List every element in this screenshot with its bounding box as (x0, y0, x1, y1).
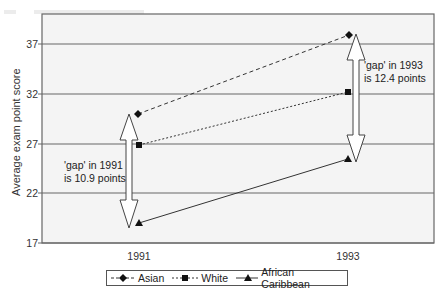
marker-white-1991 (136, 142, 142, 148)
legend-white-square-icon (172, 274, 198, 282)
x-tick-1993: 1993 (328, 250, 368, 262)
plot-frame (42, 14, 434, 243)
gap-1993-annotation: 'gap' in 1993 is 12.4 points (364, 59, 426, 85)
gap-1991-annotation: 'gap' in 1991 is 10.9 points (64, 159, 126, 185)
gap-1991-line1: 'gap' in 1991 (64, 159, 126, 172)
legend-label-white: White (201, 272, 228, 284)
y-tick-32: 32 (14, 88, 38, 100)
chart-legend: Asian White African Caribbean (106, 270, 348, 286)
y-tick-22: 22 (14, 187, 38, 199)
x-tick-1991: 1991 (119, 250, 159, 262)
gap-1993-line2: is 12.4 points (364, 72, 426, 85)
marker-white-1993 (345, 89, 351, 95)
chart-plot-area (0, 0, 445, 302)
legend-label-asian: Asian (138, 272, 164, 284)
legend-item-white: White (172, 272, 228, 284)
legend-african-caribbean-triangle-icon (236, 274, 258, 282)
gap-1991-line2: is 10.9 points (64, 172, 126, 185)
y-tick-17: 17 (14, 237, 38, 249)
legend-item-african-caribbean: African Caribbean (236, 266, 339, 290)
gap-1993-line1: 'gap' in 1993 (364, 59, 426, 72)
legend-label-african-caribbean: African Caribbean (261, 266, 339, 290)
y-tick-37: 37 (14, 38, 38, 50)
y-tick-27: 27 (14, 138, 38, 150)
legend-asian-diamond-icon (111, 274, 135, 282)
legend-item-asian: Asian (111, 272, 164, 284)
